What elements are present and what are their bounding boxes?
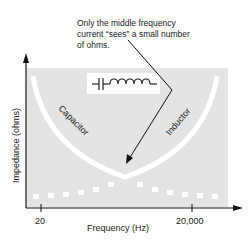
y-axis-label: Impedance (ohms) <box>11 108 21 183</box>
annotation-line-2: current “sees” a small number <box>77 29 190 39</box>
impedance-diagram: 20 20,000 Frequency (Hz) Impedance (ohms… <box>0 0 249 240</box>
x-axis-label: Frequency (Hz) <box>87 223 149 233</box>
annotation-line-3: of ohms. <box>77 40 110 50</box>
x-tick-label-20000: 20,000 <box>176 216 204 226</box>
annotation-line-1: Only the middle frequency <box>77 18 176 28</box>
x-tick-label-20: 20 <box>35 216 45 226</box>
capacitor-inductor-series-icon <box>87 73 160 94</box>
